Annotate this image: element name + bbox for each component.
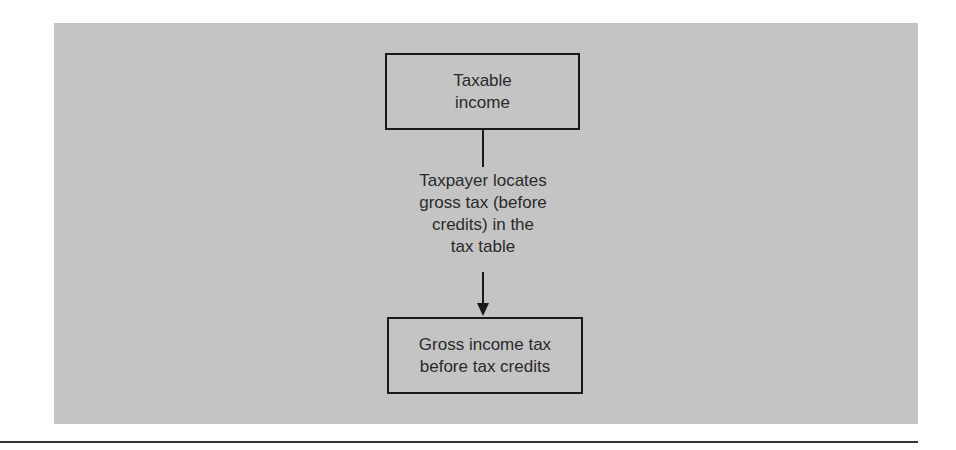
taxable-income-box: Taxable income (385, 53, 580, 130)
gross-income-tax-text: Gross income tax before tax credits (419, 334, 551, 378)
arrow-down-icon (477, 303, 489, 316)
connector-line-top (482, 130, 484, 167)
step-label: Taxpayer locates gross tax (before credi… (388, 170, 578, 258)
gross-income-tax-box: Gross income tax before tax credits (387, 317, 583, 394)
connector-line-bottom (482, 272, 484, 304)
horizontal-rule (0, 441, 918, 443)
taxable-income-text: Taxable income (453, 70, 512, 114)
